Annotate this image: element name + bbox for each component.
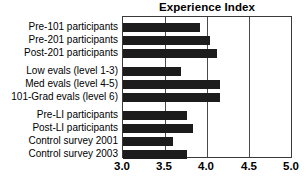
bar-pre-101-participants — [123, 23, 200, 32]
x-tick-5.0: 5.0 — [269, 160, 308, 173]
bar-control-survey-2001 — [123, 137, 173, 146]
x-tick-4.0: 4.0 — [184, 160, 228, 173]
bar-post-201-participants — [123, 49, 217, 58]
experience-index-bar-chart: Experience Index Pre-101 participants Pr… — [0, 0, 308, 189]
x-tick-3.5: 3.5 — [142, 160, 186, 173]
category-labels: Pre-101 participants Pre-201 participant… — [0, 16, 120, 158]
gridline-4.5 — [249, 17, 250, 157]
x-tick-4.5: 4.5 — [227, 160, 271, 173]
category-label-101-grad-evals: 101-Grad evals (level 6) — [0, 91, 118, 102]
bar-control-survey-2003 — [123, 150, 187, 159]
x-axis-tick-labels: 3.0 3.5 4.0 4.5 5.0 — [0, 160, 308, 180]
category-label-control-survey-2001: Control survey 2001 — [0, 135, 118, 146]
category-label-low-evals: Low evals (level 1-3) — [0, 65, 118, 76]
x-tick-3.0: 3.0 — [100, 160, 144, 173]
category-label-pre-li-participants: Pre-LI participants — [0, 109, 118, 120]
category-label-pre-201-participants: Pre-201 participants — [0, 34, 118, 45]
bar-pre-li-participants — [123, 111, 187, 120]
category-label-post-li-participants: Post-LI participants — [0, 122, 118, 133]
category-label-pre-101-participants: Pre-101 participants — [0, 21, 118, 32]
category-label-post-201-participants: Post-201 participants — [0, 47, 118, 58]
bar-low-evals — [123, 67, 181, 76]
bar-101-grad-evals — [123, 93, 220, 102]
category-label-control-survey-2003: Control survey 2003 — [0, 148, 118, 159]
plot-area — [122, 16, 292, 158]
bar-post-li-participants — [123, 124, 193, 133]
bar-pre-201-participants — [123, 36, 210, 45]
chart-title: Experience Index — [122, 0, 292, 14]
bar-med-evals — [123, 80, 220, 89]
category-label-med-evals: Med evals (level 4-5) — [0, 78, 118, 89]
